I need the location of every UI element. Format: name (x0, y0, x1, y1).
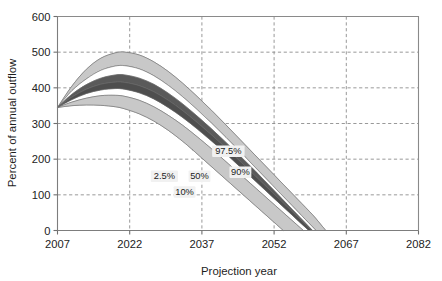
chart-canvas: 0100200300400500600200720222037205220672… (0, 0, 442, 281)
callout-label: 2.5% (154, 171, 175, 181)
y-tick-label: 0 (44, 225, 50, 237)
x-tick-label: 2037 (189, 238, 214, 250)
callout-label: 50% (190, 171, 209, 181)
projection-bands (58, 52, 326, 231)
callout-label: 90% (231, 167, 250, 177)
percentile-callout: 50% (189, 171, 211, 183)
x-tick-label: 2082 (406, 238, 431, 250)
y-tick-label: 400 (32, 82, 51, 94)
x-tick-label: 2007 (45, 238, 70, 250)
percentile-callout: 90% (229, 167, 251, 179)
y-tick-label: 100 (32, 189, 51, 201)
y-tick-label: 500 (32, 46, 51, 58)
percentile-callout: 97.5% (212, 146, 245, 158)
callout-label: 10% (175, 187, 194, 197)
x-axis-title: Projection year (201, 265, 277, 277)
tick-labels: 0100200300400500600200720222037205220672… (32, 11, 431, 250)
y-tick-label: 600 (32, 11, 51, 23)
grid-lines (58, 17, 419, 231)
y-tick-label: 300 (32, 118, 51, 130)
x-tick-label: 2052 (262, 238, 287, 250)
y-axis-title: Percent of annual outflow (6, 58, 18, 187)
x-tick-label: 2022 (117, 238, 142, 250)
y-tick-label: 200 (32, 153, 51, 165)
callout-label: 97.5% (215, 146, 241, 156)
x-tick-label: 2067 (334, 238, 359, 250)
percentile-callout: 10% (174, 186, 196, 198)
percentile-callout: 2.5% (151, 171, 178, 183)
fan-chart-figure: 0100200300400500600200720222037205220672… (0, 0, 442, 281)
